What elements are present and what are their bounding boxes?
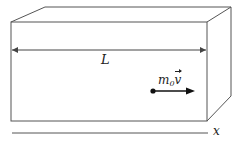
box-top-face (11, 7, 231, 22)
box-right-face (207, 7, 231, 121)
length-label: L (101, 53, 110, 66)
box-diagram (0, 0, 241, 142)
velocity-vector-symbol: v (174, 74, 181, 86)
velocity-arrowhead (186, 88, 195, 95)
momentum-label: m0v (158, 74, 181, 88)
mass-symbol: m (158, 73, 169, 87)
x-axis-label: x (213, 125, 220, 137)
